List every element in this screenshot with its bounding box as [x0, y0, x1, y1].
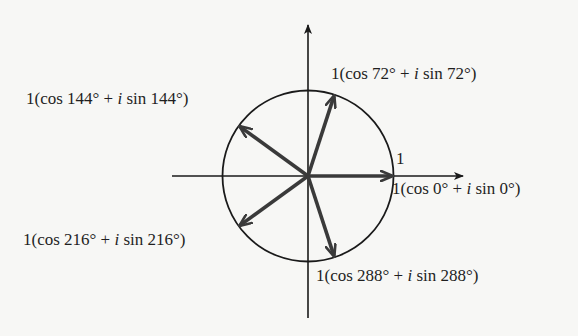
- label-216deg: 1(cos 216° + i sin 216°): [23, 230, 186, 249]
- radius-label: 1: [396, 149, 405, 168]
- vector-216deg: [240, 176, 308, 225]
- label-72deg: 1(cos 72° + i sin 72°): [331, 64, 477, 83]
- vector-288deg: [308, 176, 334, 256]
- label-0deg: 1(cos 0° + i sin 0°): [392, 179, 521, 198]
- vector-144deg: [240, 127, 308, 176]
- label-144deg: 1(cos 144° + i sin 144°): [26, 89, 189, 108]
- vector-72deg: [308, 96, 334, 176]
- unit-circle-diagram: 1 1(cos 0° + i sin 0°) 1(cos 72° + i sin…: [0, 0, 578, 336]
- label-288deg: 1(cos 288° + i sin 288°): [316, 266, 479, 285]
